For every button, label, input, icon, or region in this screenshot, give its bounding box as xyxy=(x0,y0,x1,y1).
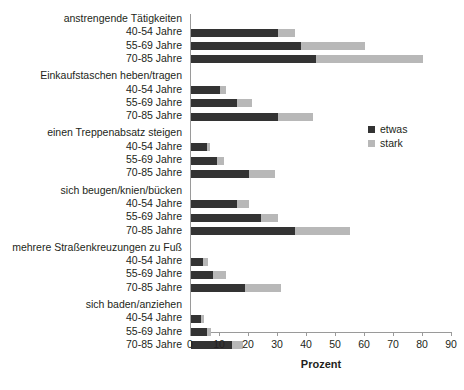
bar-segment-stark xyxy=(278,29,295,37)
age-group-label: 40-54 Jahre xyxy=(126,26,182,37)
x-axis-line xyxy=(190,332,452,333)
x-axis-tick xyxy=(219,332,220,336)
age-group-label: 70-85 Jahre xyxy=(126,339,182,350)
bar-segment-stark xyxy=(203,258,209,266)
bar-segment-etwas xyxy=(191,258,203,266)
chart-legend: etwas stark xyxy=(368,122,407,150)
bar-segment-stark xyxy=(217,157,224,165)
stacked-bar-chart: anstrengende Tätigkeiten40-54 Jahre55-69… xyxy=(0,0,464,390)
bar-segment-etwas xyxy=(191,113,278,121)
x-axis-tick xyxy=(451,332,452,336)
bar-segment-etwas xyxy=(191,271,213,279)
bar-segment-stark xyxy=(220,86,226,94)
legend-swatch-etwas xyxy=(368,126,375,133)
x-axis-tick-label: 60 xyxy=(349,338,379,350)
group-heading-label: sich baden/anziehen xyxy=(86,299,182,310)
bar-segment-stark xyxy=(249,170,275,178)
age-group-label: 40-54 Jahre xyxy=(126,198,182,209)
x-axis-tick-label: 80 xyxy=(407,338,437,350)
x-axis-tick xyxy=(364,332,365,336)
age-group-label: 55-69 Jahre xyxy=(126,268,182,279)
age-group-label: 40-54 Jahre xyxy=(126,312,182,323)
group-heading-label: sich beugen/knien/bücken xyxy=(61,185,182,196)
x-axis-tick-label: 30 xyxy=(262,338,292,350)
x-axis-tick xyxy=(190,332,191,336)
bar-segment-stark xyxy=(261,214,278,222)
age-group-label: 70-85 Jahre xyxy=(126,110,182,121)
group-heading-label: mehrere Straßenkreuzungen zu Fuß xyxy=(12,242,182,253)
bar-segment-stark xyxy=(278,113,313,121)
bar-segment-stark xyxy=(237,200,249,208)
bar-segment-etwas xyxy=(191,29,278,37)
bar-segment-stark xyxy=(237,99,252,107)
x-axis-tick xyxy=(335,332,336,336)
group-heading-label: anstrengende Tätigkeiten xyxy=(64,13,182,24)
x-axis-tick xyxy=(248,332,249,336)
age-group-label: 40-54 Jahre xyxy=(126,84,182,95)
bar-segment-etwas xyxy=(191,227,295,235)
bar-segment-stark xyxy=(245,284,281,292)
x-axis-tick-label: 10 xyxy=(204,338,234,350)
bar-segment-etwas xyxy=(191,99,237,107)
group-heading-label: einen Treppenabsatz steigen xyxy=(47,127,182,138)
bar-segment-etwas xyxy=(191,315,201,323)
age-group-label: 55-69 Jahre xyxy=(126,154,182,165)
age-group-label: 55-69 Jahre xyxy=(126,326,182,337)
x-axis-tick-label: 50 xyxy=(320,338,350,350)
bar-segment-stark xyxy=(207,143,210,151)
age-group-label: 55-69 Jahre xyxy=(126,40,182,51)
x-axis-tick xyxy=(306,332,307,336)
x-axis-tick xyxy=(277,332,278,336)
x-axis-tick-label: 0 xyxy=(175,338,205,350)
legend-label-stark: stark xyxy=(380,136,403,150)
age-group-label: 55-69 Jahre xyxy=(126,211,182,222)
bar-segment-etwas xyxy=(191,42,301,50)
x-axis-tick-label: 70 xyxy=(378,338,408,350)
x-axis-tick xyxy=(393,332,394,336)
bar-segment-etwas xyxy=(191,214,261,222)
bar-segment-stark xyxy=(295,227,350,235)
x-axis-tick-label: 40 xyxy=(291,338,321,350)
legend-entry-etwas: etwas xyxy=(368,122,407,136)
legend-swatch-stark xyxy=(368,140,375,147)
age-group-label: 55-69 Jahre xyxy=(126,97,182,108)
bar-segment-etwas xyxy=(191,284,245,292)
age-group-label: 70-85 Jahre xyxy=(126,225,182,236)
bar-segment-etwas xyxy=(191,143,207,151)
bar-segment-stark xyxy=(207,328,211,336)
plot-area: 0102030405060708090 xyxy=(190,14,451,332)
x-axis-tick xyxy=(422,332,423,336)
legend-entry-stark: stark xyxy=(368,136,407,150)
bar-segment-stark xyxy=(316,55,423,63)
age-group-label: 40-54 Jahre xyxy=(126,141,182,152)
age-group-label: 40-54 Jahre xyxy=(126,255,182,266)
category-label-column: anstrengende Tätigkeiten40-54 Jahre55-69… xyxy=(0,0,186,332)
bar-segment-etwas xyxy=(191,200,237,208)
bar-segment-etwas xyxy=(191,86,220,94)
bar-segment-etwas xyxy=(191,170,249,178)
bar-segment-etwas xyxy=(191,157,217,165)
x-axis-tick-label: 90 xyxy=(436,338,464,350)
bar-segment-etwas xyxy=(191,55,316,63)
bar-segment-stark xyxy=(213,271,226,279)
group-heading-label: Einkaufstaschen heben/tragen xyxy=(40,70,182,81)
x-axis-tick-label: 20 xyxy=(233,338,263,350)
age-group-label: 70-85 Jahre xyxy=(126,282,182,293)
bar-segment-etwas xyxy=(191,328,207,336)
bar-segment-stark xyxy=(201,315,204,323)
legend-label-etwas: etwas xyxy=(380,122,407,136)
age-group-label: 70-85 Jahre xyxy=(126,53,182,64)
bar-segment-stark xyxy=(301,42,365,50)
x-axis-title: Prozent xyxy=(190,358,452,370)
age-group-label: 70-85 Jahre xyxy=(126,167,182,178)
